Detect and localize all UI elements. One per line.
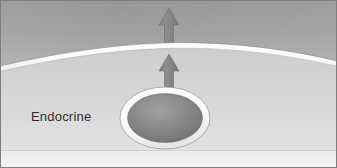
endocrine-label: Endocrine	[31, 109, 91, 125]
bottom-margin-band	[0, 150, 337, 168]
endocrine-signaling-figure: Endocrine	[0, 0, 337, 168]
endocrine-cell	[120, 87, 210, 149]
diagram-canvas	[0, 0, 337, 168]
